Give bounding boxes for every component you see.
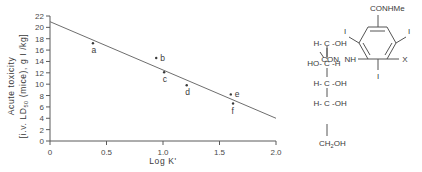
chain-left-substituent: H-: [314, 99, 323, 108]
chain-left-substituent: H-: [314, 79, 323, 88]
ring-outer-bond: [359, 27, 396, 59]
y-tick-label: 14: [35, 57, 44, 66]
data-point-label: f: [232, 106, 235, 116]
chain-right-substituent: -H: [332, 59, 341, 68]
y-axis-title-line2-subscript: 50: [23, 100, 29, 107]
x-axis-ticks: 00.51.01.52.0: [48, 141, 282, 157]
benzene-ring: [359, 27, 396, 59]
terminal-pre: CH: [319, 139, 331, 148]
y-tick-label: 10: [35, 80, 44, 89]
x-tick-label: 1.5: [214, 148, 226, 157]
data-point-marker: [155, 57, 157, 59]
x-tick-label: 2.0: [270, 148, 282, 157]
figure-root: 0246810121416182022 00.51.01.52.0 abcdef…: [0, 0, 422, 172]
y-tick-label: 22: [35, 12, 44, 21]
toxicity-vs-logk-chart: 0246810121416182022 00.51.01.52.0 abcdef…: [0, 0, 290, 172]
amide-label-conhme: CONHMe: [370, 4, 405, 13]
y-tick-label: 0: [40, 137, 45, 146]
x-tick-label: 0.5: [101, 148, 113, 157]
y-tick-label: 12: [35, 69, 44, 78]
y-axis-ticks: 0246810121416182022: [35, 12, 50, 146]
terminal-post: OH: [334, 139, 346, 148]
chain-carbon: C: [324, 79, 330, 88]
y-tick-label: 20: [35, 23, 44, 32]
chain-left-substituent: H-: [314, 39, 323, 48]
chain-carbon: C: [324, 39, 330, 48]
chain-right-substituent: -OH: [332, 39, 347, 48]
iodine-right-bond: [396, 37, 406, 43]
ring-inner-bond-left: [363, 43, 370, 55]
y-axis-title-line1: Acute toxicity: [6, 57, 16, 116]
y-tick-label: 16: [35, 46, 44, 55]
ring-inner-bond-right: [385, 43, 392, 55]
chart-canvas: 0246810121416182022 00.51.01.52.0 abcdef…: [0, 0, 290, 172]
polyol-chain: CH--OHCHO--HCH--OHCH--OH: [307, 39, 347, 108]
data-point-label: b: [160, 53, 165, 63]
chain-left-substituent: HO-: [307, 59, 322, 68]
data-point-label: e: [235, 89, 240, 99]
y-tick-label: 2: [40, 126, 45, 135]
x-axis-title: Log K': [149, 156, 176, 166]
iodine-right-label: I: [408, 27, 410, 36]
x-tick-label: 0: [48, 148, 53, 157]
data-point-group: abcdef: [91, 42, 239, 115]
data-point-label: d: [185, 87, 190, 97]
data-point-marker: [92, 42, 94, 44]
y-axis-title-line2-pre: [i.v. LD: [18, 108, 28, 139]
terminal-ch2oh-label: CH2OH: [319, 139, 346, 149]
chain-carbon: C: [324, 99, 330, 108]
variable-group-label: X: [402, 55, 408, 64]
y-tick-label: 6: [40, 103, 45, 112]
data-point-marker: [230, 93, 232, 95]
iodine-bottom-label: I: [377, 72, 379, 81]
chemical-structure-figure: CONHMe I I X I NH CON CH--OHCHO--HCH--OH…: [290, 0, 422, 172]
iodine-left-label: I: [344, 27, 346, 36]
data-point-marker: [232, 102, 234, 104]
data-point-label: a: [91, 45, 96, 55]
regression-line: [50, 22, 276, 119]
y-tick-label: 8: [40, 92, 45, 101]
chain-right-substituent: -OH: [332, 79, 347, 88]
iodine-left-bond: [349, 37, 359, 43]
y-tick-label: 18: [35, 35, 44, 44]
data-point-label: c: [163, 74, 168, 84]
y-tick-label: 4: [40, 114, 45, 123]
data-point-marker: [163, 71, 165, 73]
y-axis-title-line2-post: (mice), g I /kg]: [18, 34, 28, 100]
ring-nh-label: NH: [344, 55, 356, 64]
structure-canvas: CONHMe I I X I NH CON CH--OHCHO--HCH--OH…: [290, 0, 422, 172]
y-axis-title-line2: [i.v. LD50 (mice), g I /kg]: [18, 34, 29, 138]
data-point-marker: [186, 84, 188, 86]
chain-carbon: C: [324, 59, 330, 68]
chain-right-substituent: -OH: [332, 99, 347, 108]
